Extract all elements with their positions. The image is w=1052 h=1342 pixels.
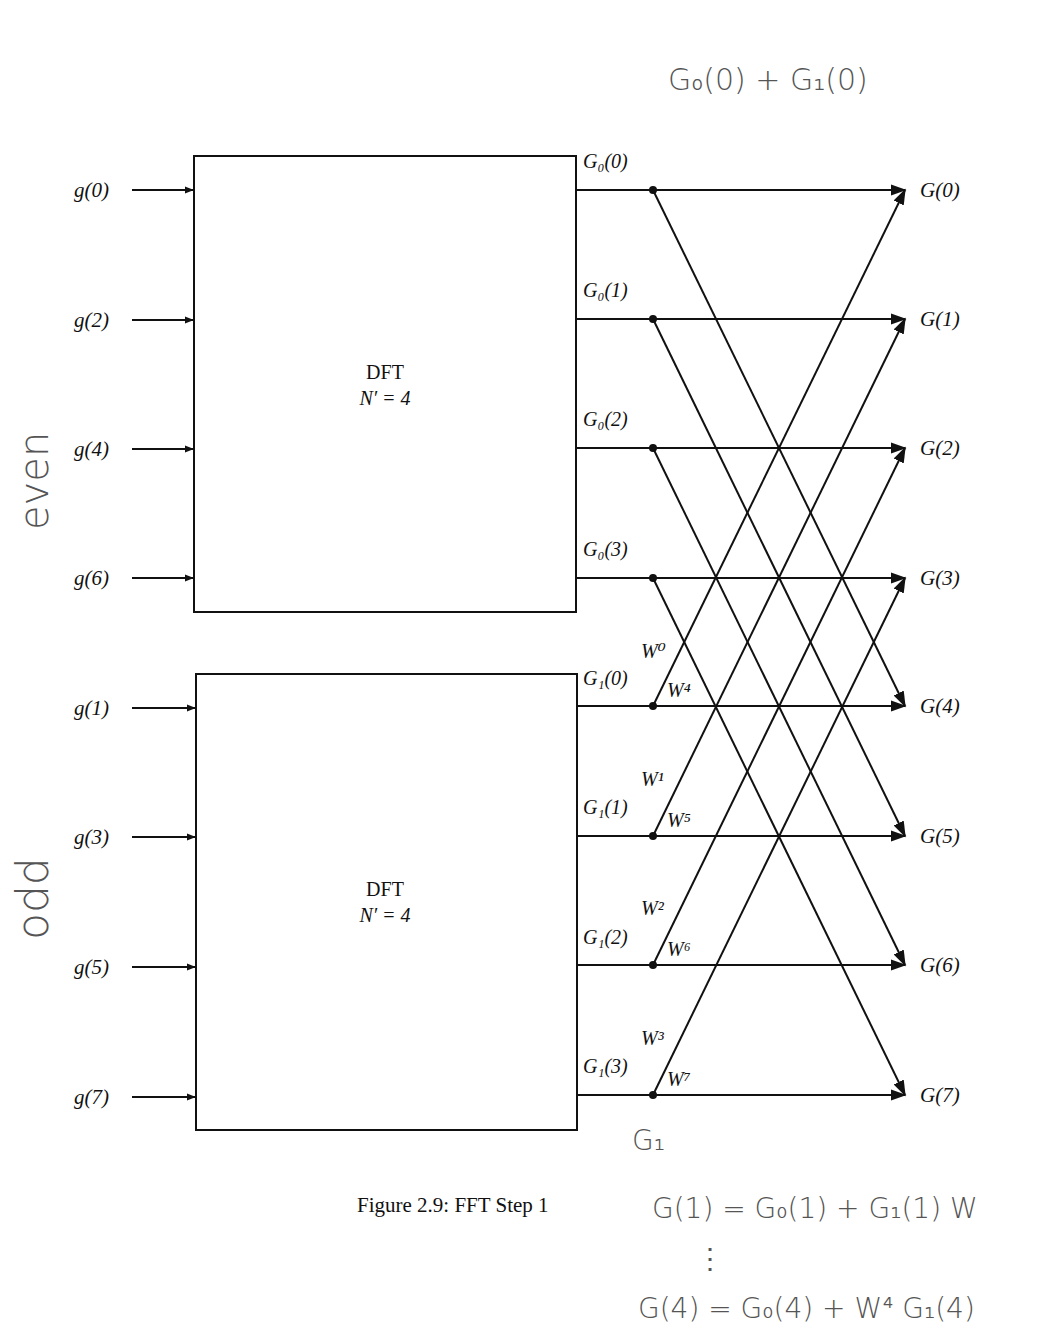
twiddle-labels: W⁰ W⁴ W¹ W⁵ W² W⁶ W³ W⁷ — [641, 640, 691, 1090]
even-dft-block: DFT N′ = 4 — [194, 156, 576, 612]
diagonal-down-paths — [653, 190, 905, 1095]
odd-dft-title: DFT — [366, 878, 404, 900]
even-dft-title: DFT — [366, 361, 404, 383]
twiddle-label: W⁰ — [641, 640, 666, 662]
g1-output-label: G₁(3) — [583, 1055, 628, 1078]
input-label: g(0) — [74, 178, 109, 202]
intermediate-output-labels: G₀(0) G₀(1) G₀(2) G₀(3) G₁(0) G₁(1) G₁(2… — [583, 150, 628, 1078]
input-label: g(2) — [74, 308, 109, 332]
twiddle-label: W¹ — [641, 768, 664, 790]
input-label: g(4) — [74, 437, 109, 461]
twiddle-label: W³ — [641, 1027, 665, 1049]
handwritten-odd-label: odd — [7, 857, 58, 940]
handwritten-top-note: G₀(0) + G₁(0) — [668, 62, 868, 97]
final-output-label: G(2) — [920, 436, 960, 460]
handwritten-ellipsis: ⋮ — [696, 1242, 724, 1275]
g0-output-label: G₀(1) — [583, 279, 628, 302]
handwritten-equation-1: G(1) = G₀(1) + G₁(1) W — [652, 1192, 978, 1225]
even-dft-box — [194, 156, 576, 612]
odd-dft-size: N′ = 4 — [358, 904, 410, 926]
figure-caption: Figure 2.9: FFT Step 1 — [357, 1193, 549, 1217]
final-output-label: G(7) — [920, 1083, 960, 1107]
odd-dft-box — [196, 674, 577, 1130]
final-output-label: G(4) — [920, 694, 960, 718]
final-output-label: G(5) — [920, 824, 960, 848]
odd-inputs: g(1) g(3) g(5) g(7) — [74, 696, 195, 1109]
final-output-label: G(0) — [920, 178, 960, 202]
g1-output-label: G₁(0) — [583, 667, 628, 690]
input-label: g(6) — [74, 566, 109, 590]
input-label: g(1) — [74, 696, 109, 720]
g0-output-label: G₀(3) — [583, 538, 628, 561]
input-label: g(7) — [74, 1085, 109, 1109]
horizontal-paths — [577, 190, 905, 1095]
input-label: g(3) — [74, 825, 109, 849]
twiddle-label: W⁷ — [667, 1068, 691, 1090]
twiddle-label: W⁴ — [667, 679, 691, 701]
twiddle-label: W² — [641, 897, 665, 919]
even-dft-size: N′ = 4 — [358, 387, 410, 409]
g1-output-label: G₁(1) — [583, 796, 628, 819]
g0-output-label: G₀(0) — [583, 150, 628, 173]
final-output-labels: G(0) G(1) G(2) G(3) G(4) G(5) G(6) G(7) — [920, 178, 960, 1107]
twiddle-label: W⁵ — [667, 809, 691, 831]
g0-output-label: G₀(2) — [583, 408, 628, 431]
twiddle-label: W⁶ — [667, 938, 691, 960]
handwritten-g1-note: G₁ — [632, 1124, 665, 1157]
final-output-label: G(3) — [920, 566, 960, 590]
handwritten-equation-2: G(4) = G₀(4) + W⁴ G₁(4) — [638, 1292, 975, 1325]
final-output-label: G(6) — [920, 953, 960, 977]
handwritten-even-label: even — [11, 432, 57, 530]
diagonal-up-paths — [653, 190, 905, 1095]
even-inputs: g(0) g(2) g(4) g(6) — [74, 178, 193, 590]
final-output-label: G(1) — [920, 307, 960, 331]
odd-dft-block: DFT N′ = 4 — [196, 674, 577, 1130]
fft-butterfly-diagram: G₀(0) + G₁(0) DFT N′ = 4 DFT N′ = 4 g(0)… — [0, 0, 1052, 1342]
input-label: g(5) — [74, 955, 109, 979]
g1-output-label: G₁(2) — [583, 926, 628, 949]
